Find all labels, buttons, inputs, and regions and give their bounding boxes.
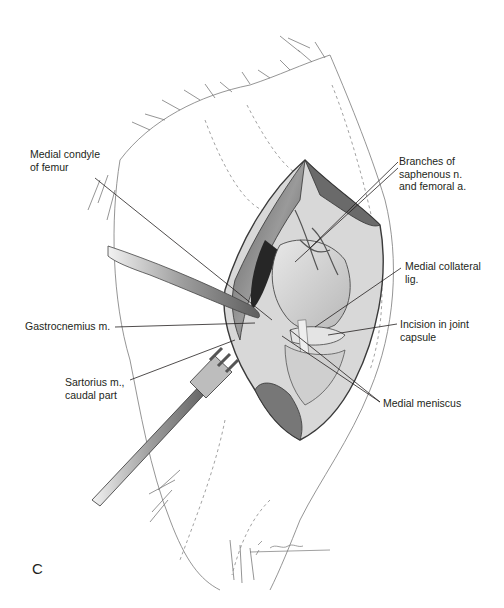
- label-medial-collateral-ligament: Medial collateral lig.: [405, 260, 481, 285]
- illustration-drawing: [0, 0, 504, 608]
- artist-signature: [250, 541, 330, 555]
- anatomical-illustration: Medial condyle of femur Branches of saph…: [0, 0, 504, 608]
- label-incision-in-joint-capsule: Incision in joint capsule: [400, 318, 469, 343]
- label-medial-condyle-of-femur: Medial condyle of femur: [30, 148, 100, 173]
- label-sartorius-caudal-part: Sartorius m., caudal part: [65, 376, 125, 401]
- lower-retractor: [92, 348, 238, 506]
- surgical-opening: [224, 160, 383, 440]
- panel-letter: C: [32, 560, 43, 577]
- label-gastrocnemius: Gastrocnemius m.: [25, 320, 110, 333]
- label-medial-meniscus: Medial meniscus: [383, 397, 461, 410]
- label-branches-of-saphenous-nerve: Branches of saphenous n. and femoral a.: [399, 155, 466, 193]
